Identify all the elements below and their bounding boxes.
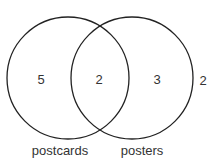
posters-circle bbox=[71, 17, 193, 139]
posters-label: posters bbox=[121, 143, 164, 158]
venn-diagram: 5 2 3 2 postcards posters bbox=[0, 0, 215, 166]
postcards-only-count: 5 bbox=[37, 72, 44, 87]
posters-only-count: 3 bbox=[153, 72, 160, 87]
postcards-label: postcards bbox=[32, 143, 89, 158]
postcards-circle bbox=[7, 17, 129, 139]
intersection-count: 2 bbox=[95, 72, 102, 87]
outside-count: 2 bbox=[199, 73, 206, 88]
